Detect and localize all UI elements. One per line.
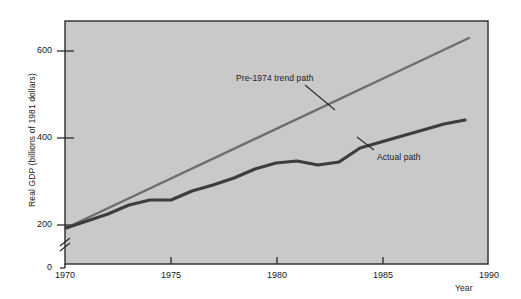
x-tick-label-1970: 1970 [42,270,88,280]
x-tick-label-1975: 1975 [148,270,194,280]
y-tick-label-600: 600 [18,45,52,55]
trend-annotation-label: Pre-1974 trend path [236,73,314,83]
y-tick-label-200: 200 [18,219,52,229]
actual-annotation-label: Actual path [377,152,421,162]
plot-area-background [65,21,488,264]
x-tick-label-1990: 1990 [466,270,512,280]
x-axis-title: Year [455,283,473,293]
y-tick-label-400: 400 [18,132,52,142]
x-tick-label-1985: 1985 [360,270,406,280]
chart-canvas [0,0,521,299]
chart-figure: Real GDP (billions of 1981 dollars) Year… [0,0,521,299]
x-tick-label-1980: 1980 [254,270,300,280]
